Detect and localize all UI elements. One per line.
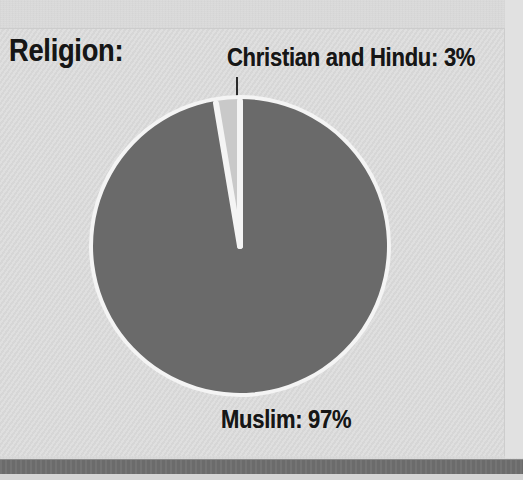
plate-right-margin <box>505 0 523 458</box>
bottom-margin-strip <box>0 474 523 480</box>
page-title: Religion: <box>9 35 123 66</box>
pie-slice-label-minor: Christian and Hindu: 3% <box>227 45 475 70</box>
religion-pie-chart-figure: Religion: Christian and Hindu: 3% Muslim… <box>0 0 523 480</box>
bottom-rule-bar <box>0 459 523 474</box>
pie-chart <box>86 92 394 400</box>
pie-slice-label-major: Muslim: 97% <box>221 407 351 432</box>
